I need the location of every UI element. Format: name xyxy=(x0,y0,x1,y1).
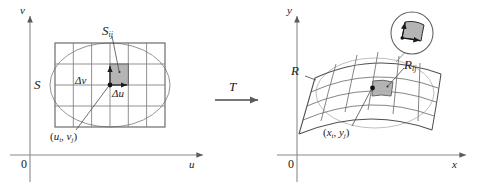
sample-point-uv-label: (ui, vj) xyxy=(50,131,77,144)
shaded-cell-sij xyxy=(110,64,128,85)
magnified-cell-inset xyxy=(391,12,433,62)
v-axis-label: v xyxy=(20,5,25,16)
uv-plane-axes xyxy=(10,16,203,182)
transformation-label: T xyxy=(229,80,236,93)
delta-u-label: Δu xyxy=(112,88,124,99)
cell-rij-label: Rij xyxy=(404,58,416,73)
paren-close-uv: ) xyxy=(73,130,77,142)
xy-origin-label: 0 xyxy=(288,158,294,170)
delta-v-label: Δv xyxy=(75,75,86,86)
x-axis-label: x xyxy=(452,159,457,170)
region-s-label: S xyxy=(34,78,41,91)
uv-origin-label: 0 xyxy=(21,158,27,170)
figure-canvas xyxy=(0,0,477,188)
change-of-variables-figure: v 0 u S Sij Δv Δu (ui, vj) T y 0 x R Rij… xyxy=(0,0,477,188)
leader-sij-dot xyxy=(119,71,121,73)
cell-sij-sub: ij xyxy=(109,30,113,39)
sample-point-xy xyxy=(370,86,375,91)
xy-curvilinear-grid xyxy=(299,52,441,134)
u-axis-label: u xyxy=(189,159,195,170)
cell-sij-label: Sij xyxy=(102,24,113,39)
region-r-label: R xyxy=(291,64,299,77)
shaded-cell-rij xyxy=(372,80,393,96)
y-axis-label: y xyxy=(287,5,292,16)
leader-rij-dot xyxy=(387,86,389,88)
cell-rij-base: R xyxy=(404,57,412,72)
cell-rij-sub: ij xyxy=(412,64,416,73)
leader-r xyxy=(305,76,316,80)
sample-point-xy-label: (xi, yj) xyxy=(323,127,349,140)
paren-close-xy: ) xyxy=(346,126,350,138)
